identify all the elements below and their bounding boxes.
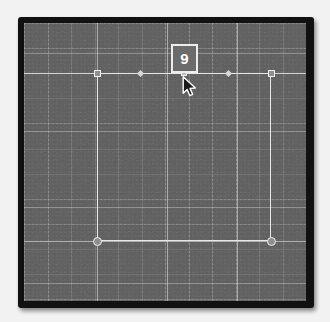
handle-bottom-left[interactable] (93, 237, 102, 246)
spacing-value-badge: 9 (171, 44, 198, 73)
grid-major-hline (24, 283, 306, 284)
grid-major-hline (24, 53, 306, 54)
handle-top-right[interactable] (268, 70, 275, 77)
design-canvas[interactable]: 9 (24, 23, 306, 301)
alignment-guide-bottom (24, 241, 306, 242)
selected-rectangle[interactable] (97, 73, 271, 241)
handle-top-left[interactable] (94, 70, 101, 77)
screenshot-root: 9 (0, 0, 330, 322)
handle-bottom-right[interactable] (267, 237, 276, 246)
